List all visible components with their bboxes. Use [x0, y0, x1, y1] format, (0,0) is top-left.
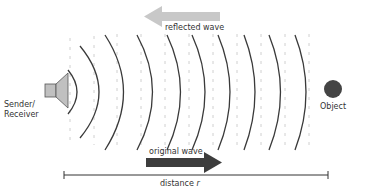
- circle-object-icon: [324, 80, 342, 98]
- distance-variable: r: [196, 179, 199, 188]
- distance-line: [64, 171, 328, 179]
- original-wavefronts: [68, 35, 306, 150]
- speaker-icon: [45, 73, 68, 108]
- reflected-wave-label: reflected wave: [165, 23, 224, 33]
- reflected-wavefronts: [70, 34, 309, 148]
- original-wave-label: original wave: [149, 147, 203, 157]
- distance-text: distance: [160, 179, 196, 188]
- object-label: Object: [320, 102, 346, 112]
- receiver-label: Receiver: [4, 110, 44, 120]
- sender-label: Sender/: [4, 100, 44, 110]
- sender-receiver-label: Sender/ Receiver: [4, 100, 44, 120]
- distance-label: distance r: [160, 179, 200, 189]
